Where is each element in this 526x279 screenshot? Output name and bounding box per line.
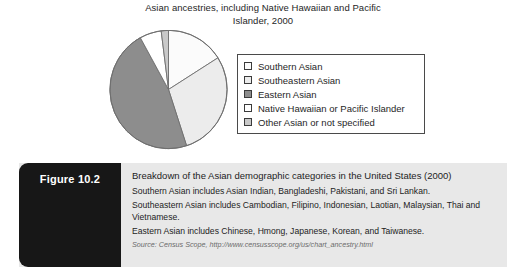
figure-note-southern-asian: Southern Asian includes Asian Indian, Ba…: [132, 186, 499, 197]
chart-title-line-2: Islander, 2000: [233, 15, 293, 26]
figure-number-tab: Figure 10.2: [19, 163, 121, 267]
pie-chart-graphic: [109, 30, 228, 150]
figure-source-line: Source: Census Scope, http://www.censuss…: [132, 240, 499, 249]
figure-caption-body: Breakdown of the Asian demographic categ…: [132, 170, 499, 249]
legend-item[interactable]: Native Hawaiian or Pacific Islander: [244, 101, 418, 115]
legend-swatch-eastern-asian: [244, 90, 252, 98]
legend-swatch-southern-asian: [244, 62, 252, 70]
pie-slices: [110, 30, 227, 148]
legend-label: Native Hawaiian or Pacific Islander: [258, 103, 405, 114]
legend-swatch-native-hawaiian: [244, 104, 252, 112]
pie-chart-figure: Asian ancestries, including Native Hawai…: [0, 0, 526, 155]
legend-item[interactable]: Southern Asian: [244, 59, 418, 73]
legend-label: Southern Asian: [258, 61, 322, 72]
chart-legend: Southern Asian Southeastern Asian Easter…: [237, 54, 425, 134]
legend-label: Other Asian or not specified: [258, 117, 375, 128]
figure-note-southeastern-asian: Southeastern Asian includes Cambodian, F…: [132, 200, 499, 222]
chart-title-line-1: Asian ancestries, including Native Hawai…: [145, 2, 381, 13]
legend-swatch-other-asian: [244, 118, 252, 126]
legend-item[interactable]: Southeastern Asian: [244, 73, 418, 87]
figure-caption-panel: Figure 10.2 Breakdown of the Asian demog…: [19, 163, 507, 267]
figure-note-eastern-asian: Eastern Asian includes Chinese, Hmong, J…: [132, 226, 499, 237]
chart-title: Asian ancestries, including Native Hawai…: [113, 2, 413, 27]
pie-svg: [109, 30, 228, 150]
figure-caption-heading: Breakdown of the Asian demographic categ…: [132, 170, 499, 182]
figure-number-label: Figure 10.2: [19, 173, 121, 185]
legend-item[interactable]: Other Asian or not specified: [244, 115, 418, 129]
legend-item[interactable]: Eastern Asian: [244, 87, 418, 101]
legend-swatch-southeastern-asian: [244, 76, 252, 84]
legend-label: Southeastern Asian: [258, 75, 340, 86]
legend-label: Eastern Asian: [258, 89, 317, 100]
